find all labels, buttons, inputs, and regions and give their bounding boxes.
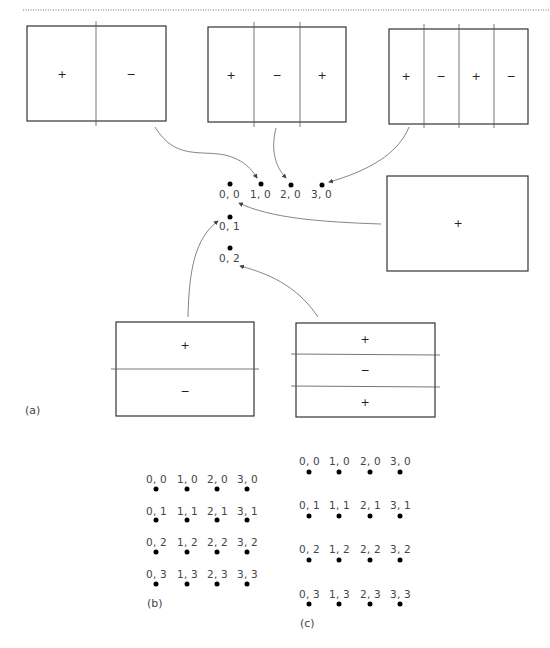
point-label: 0, 1 bbox=[299, 499, 320, 511]
mode-box-1-0 bbox=[27, 21, 166, 126]
point-dot bbox=[228, 246, 233, 251]
point-dot bbox=[245, 582, 250, 587]
point-label: 0, 1 bbox=[219, 220, 240, 232]
point-label: 1, 1 bbox=[329, 499, 350, 511]
point-label: 2, 0 bbox=[207, 473, 228, 485]
caption-b: (b) bbox=[147, 597, 163, 610]
point-label: 1, 2 bbox=[329, 543, 350, 555]
point-dot bbox=[320, 183, 325, 188]
point-label: 1, 1 bbox=[177, 505, 198, 517]
point-dot bbox=[215, 582, 220, 587]
arrow-to-0-2 bbox=[240, 266, 318, 317]
point-label: 1, 0 bbox=[177, 473, 198, 485]
point-dot bbox=[398, 470, 403, 475]
point-dot bbox=[154, 582, 159, 587]
point-label: 3, 0 bbox=[311, 188, 332, 200]
point-label: 0, 0 bbox=[146, 473, 167, 485]
point-dot bbox=[228, 182, 233, 187]
point-dot bbox=[215, 518, 220, 523]
point-label: 2, 3 bbox=[207, 568, 228, 580]
point-dot bbox=[398, 558, 403, 563]
arrow-to-3-0 bbox=[329, 127, 409, 182]
point-dot bbox=[307, 602, 312, 607]
point-dot bbox=[398, 514, 403, 519]
sign-minus: − bbox=[506, 70, 515, 83]
point-dot bbox=[307, 470, 312, 475]
diagram-linework bbox=[0, 0, 550, 648]
point-dot bbox=[154, 518, 159, 523]
point-label: 1, 0 bbox=[329, 455, 350, 467]
point-label: 2, 2 bbox=[207, 536, 228, 548]
point-label: 0, 0 bbox=[219, 188, 240, 200]
sign-plus: + bbox=[401, 70, 410, 83]
point-dot bbox=[185, 550, 190, 555]
point-dot bbox=[289, 183, 294, 188]
point-label: 3, 1 bbox=[237, 505, 258, 517]
arrow-to-2-0 bbox=[274, 128, 286, 178]
point-dot bbox=[337, 470, 342, 475]
point-label: 0, 2 bbox=[146, 536, 167, 548]
point-label: 2, 3 bbox=[360, 588, 381, 600]
point-label: 3, 2 bbox=[237, 536, 258, 548]
sign-plus: + bbox=[453, 217, 462, 230]
sign-plus: + bbox=[226, 69, 235, 82]
point-dot bbox=[154, 550, 159, 555]
point-dot bbox=[368, 514, 373, 519]
point-label: 3, 3 bbox=[390, 588, 411, 600]
point-label: 0, 2 bbox=[299, 543, 320, 555]
sign-minus: − bbox=[360, 364, 369, 377]
point-label: 3, 0 bbox=[237, 473, 258, 485]
point-dot bbox=[245, 487, 250, 492]
point-label: 1, 3 bbox=[329, 588, 350, 600]
point-label: 3, 1 bbox=[390, 499, 411, 511]
point-label: 2, 1 bbox=[207, 505, 228, 517]
point-label: 0, 0 bbox=[299, 455, 320, 467]
caption-c: (c) bbox=[300, 617, 315, 630]
point-label: 3, 3 bbox=[237, 568, 258, 580]
sign-minus: − bbox=[272, 69, 281, 82]
point-label: 0, 2 bbox=[219, 252, 240, 264]
point-dot bbox=[337, 602, 342, 607]
point-label: 2, 2 bbox=[360, 543, 381, 555]
point-label: 2, 0 bbox=[360, 455, 381, 467]
point-dot bbox=[259, 182, 264, 187]
arrow-to-0-0 bbox=[239, 203, 381, 224]
point-dot bbox=[368, 470, 373, 475]
sign-plus: + bbox=[471, 70, 480, 83]
point-dot bbox=[337, 558, 342, 563]
point-label: 0, 1 bbox=[146, 505, 167, 517]
point-dot bbox=[368, 602, 373, 607]
point-label: 2, 0 bbox=[280, 188, 301, 200]
point-label: 1, 0 bbox=[250, 188, 271, 200]
point-dot bbox=[185, 487, 190, 492]
point-dot bbox=[185, 518, 190, 523]
sign-plus: + bbox=[57, 68, 66, 81]
sign-plus: + bbox=[360, 396, 369, 409]
sign-minus: − bbox=[180, 385, 189, 398]
arrow-to-0-1 bbox=[188, 221, 218, 317]
sign-plus: + bbox=[180, 339, 189, 352]
point-dot bbox=[154, 487, 159, 492]
point-label: 0, 3 bbox=[146, 568, 167, 580]
point-label: 3, 2 bbox=[390, 543, 411, 555]
point-dot bbox=[215, 550, 220, 555]
point-dot bbox=[368, 558, 373, 563]
point-label: 2, 1 bbox=[360, 499, 381, 511]
point-label: 1, 3 bbox=[177, 568, 198, 580]
point-dot bbox=[245, 518, 250, 523]
point-dot bbox=[337, 514, 342, 519]
point-label: 3, 0 bbox=[390, 455, 411, 467]
mode-box-0-1 bbox=[111, 322, 259, 416]
point-dot bbox=[245, 550, 250, 555]
point-label: 0, 3 bbox=[299, 588, 320, 600]
sign-plus: + bbox=[360, 333, 369, 346]
point-dot bbox=[307, 558, 312, 563]
point-label: 1, 2 bbox=[177, 536, 198, 548]
point-dot bbox=[228, 215, 233, 220]
point-dot bbox=[215, 487, 220, 492]
point-dot bbox=[185, 582, 190, 587]
sign-plus: + bbox=[317, 69, 326, 82]
sign-minus: − bbox=[126, 68, 135, 81]
point-dot bbox=[398, 602, 403, 607]
sign-minus: − bbox=[436, 70, 445, 83]
